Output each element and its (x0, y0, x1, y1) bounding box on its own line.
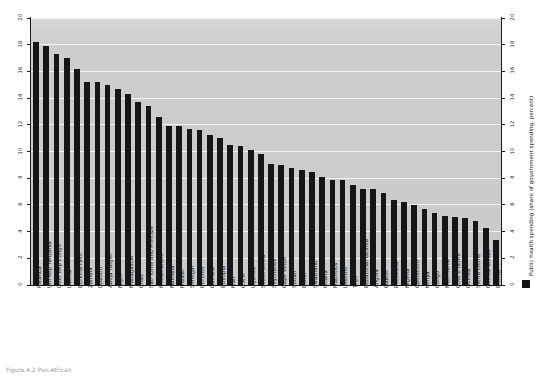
x-tick-label: Liberia (66, 269, 72, 288)
y-tick-label: 20 (17, 11, 23, 23)
x-tick-label: Uganda (250, 267, 256, 288)
bar (187, 129, 193, 285)
x-axis-category-labels: RwandaUni Rep TanzaniaDem Rep CongoLiber… (31, 286, 501, 356)
legend-label: Public health spending (share of governm… (528, 96, 534, 276)
x-tick-label: Ethiopia (220, 266, 226, 288)
y-tick-label: 8 (17, 171, 23, 183)
tick-mark (27, 178, 30, 179)
gridline (31, 258, 501, 259)
y-tick-label: 10 (17, 145, 23, 157)
x-tick-label: Dem Rep Congo (56, 244, 62, 288)
y-tick-label: 16 (509, 64, 515, 76)
bar (95, 82, 101, 285)
gridline (31, 18, 501, 19)
tick-mark (502, 71, 505, 72)
tick-mark (502, 98, 505, 99)
bar (197, 130, 203, 285)
y-tick-label: 0 (509, 278, 515, 290)
x-tick-label: Seychelles (271, 259, 277, 288)
x-tick-label: Kenya (424, 271, 430, 288)
x-tick-label: Swaziland (312, 260, 318, 288)
tick-mark (502, 285, 505, 286)
tick-mark (502, 124, 505, 125)
gridline (31, 44, 501, 45)
gridline (31, 151, 501, 152)
bar (299, 170, 305, 285)
tick-mark (27, 204, 30, 205)
x-tick-label: Guinea-Bissau (485, 249, 491, 288)
tick-mark (27, 71, 30, 72)
tick-mark (502, 204, 505, 205)
x-tick-label: Djibouti (97, 267, 103, 288)
x-tick-label: Abuja Target (107, 254, 113, 288)
bar (33, 42, 39, 285)
y-axis-left (30, 17, 31, 286)
gridline (31, 124, 501, 125)
x-tick-label: Eritrea (495, 270, 501, 288)
tick-mark (27, 258, 30, 259)
x-tick-label: Angola (373, 269, 379, 288)
x-tick-label: Mozambique (158, 253, 164, 288)
legend: Public health spending (share of governm… (518, 130, 542, 310)
bar (217, 138, 223, 285)
bar (289, 168, 295, 285)
y-tick-label: 10 (509, 145, 515, 157)
bar (319, 177, 325, 285)
gridline (31, 231, 501, 232)
y-tick-label: 12 (17, 118, 23, 130)
tick-mark (27, 44, 30, 45)
tick-mark (502, 151, 505, 152)
tick-mark (502, 18, 505, 19)
y-tick-label: 18 (17, 38, 23, 50)
x-tick-label: Nigeria (404, 268, 410, 288)
legend-swatch-icon (522, 280, 530, 288)
bar (64, 58, 70, 285)
bar (227, 145, 233, 285)
x-tick-label: Cape Verde (281, 257, 287, 288)
tick-mark (502, 44, 505, 45)
x-tick-label: Sierra Leone (475, 254, 481, 288)
y-tick-label: 14 (509, 91, 515, 103)
x-tick-label: Rwanda (36, 266, 42, 288)
bar (115, 89, 121, 285)
x-tick-label: Ghana (322, 270, 328, 288)
bar (248, 150, 254, 285)
x-tick-label: Sao Tome and Principe (148, 226, 154, 288)
x-tick-label: Cameroon (414, 260, 420, 288)
bar (207, 135, 213, 285)
x-tick-label: Botswana (393, 261, 399, 288)
x-tick-label: Malawi (179, 269, 185, 288)
x-tick-label: Sudan (291, 271, 297, 288)
y-tick-label: 20 (509, 11, 515, 23)
x-tick-label: Cote d'Ivoire (455, 253, 461, 288)
tick-mark (27, 151, 30, 152)
y-tick-label: 0 (17, 278, 23, 290)
y-tick-label: 18 (509, 38, 515, 50)
x-tick-label: Niger (117, 273, 123, 288)
x-tick-label: Benin (301, 272, 307, 288)
y-tick-label: 16 (17, 64, 23, 76)
plot-area (31, 18, 501, 285)
x-tick-label: Gabon (383, 270, 389, 288)
y-tick-label: 4 (17, 225, 23, 237)
x-tick-label: Equatorial Guinea (363, 239, 369, 288)
tick-mark (27, 285, 30, 286)
tick-mark (502, 178, 505, 179)
x-tick-label: Mauritius (332, 263, 338, 288)
gridline (31, 98, 501, 99)
y-tick-label: 14 (17, 91, 23, 103)
x-tick-label: Burundi (199, 267, 205, 288)
figure: 02468101214161820 02468101214161820 Rwan… (0, 0, 546, 377)
bar (238, 146, 244, 285)
x-tick-label: Guinea (465, 269, 471, 288)
x-tick-label: Mali (230, 277, 236, 288)
x-tick-label: South Africa (260, 255, 266, 288)
x-tick-label: Chad (138, 274, 144, 288)
gridline (31, 178, 501, 179)
x-tick-label: Lesotho (342, 267, 348, 289)
y-tick-label: 6 (509, 198, 515, 210)
tick-mark (27, 98, 30, 99)
gridline (31, 71, 501, 72)
tick-mark (502, 258, 505, 259)
y-tick-label: 2 (17, 251, 23, 263)
